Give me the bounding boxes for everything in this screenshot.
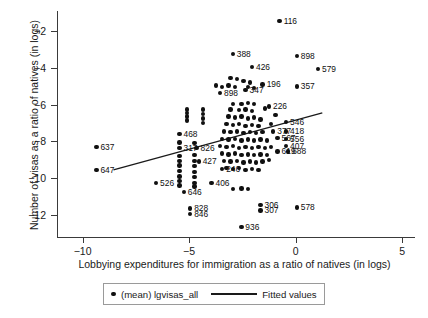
legend-item-fitted: Fitted values	[211, 289, 316, 300]
legend-item-scatter: (mean) lgvisas_all	[111, 289, 198, 300]
legend-line-marker-icon	[211, 293, 257, 294]
chart-container: Number of visas as a ratio of natives (i…	[0, 0, 428, 318]
chart-legend: (mean) lgvisas_all Fitted values	[103, 283, 325, 305]
legend-label-fitted: Fitted values	[262, 289, 316, 300]
fitted-values-line	[0, 0, 428, 318]
legend-dot-marker-icon	[111, 292, 116, 297]
legend-label-scatter: (mean) lgvisas_all	[121, 289, 198, 300]
